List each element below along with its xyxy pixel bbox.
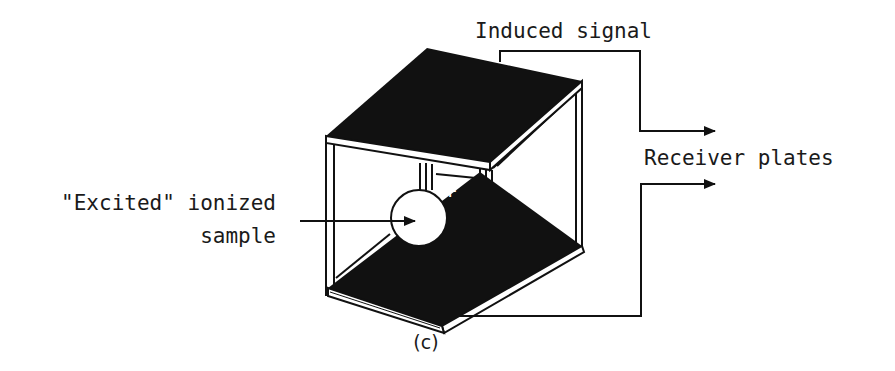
top-receiver-plate [326,48,582,170]
ionized-sample-circle [391,190,447,246]
ion-charge-plus: + [443,178,456,203]
figure-caption: (c) [413,331,438,353]
sample-label-line2: sample [200,224,276,248]
receiver-plates-label: Receiver plates [644,146,834,170]
icr-cell-diagram: + Induced signal Receiver plates "Excite… [0,0,895,371]
induced-signal-label: Induced signal [475,19,652,43]
sample-label-line1: "Excited" ionized [61,191,276,215]
